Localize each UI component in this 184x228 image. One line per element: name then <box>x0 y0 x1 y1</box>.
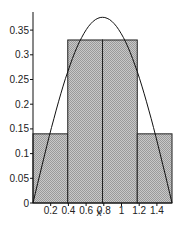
x-tick-label: 0.6 <box>79 205 93 216</box>
x-axis-label: x <box>97 207 102 218</box>
y-tick-label: 0.1 <box>15 148 29 159</box>
x-tick-label: 1 <box>119 205 125 216</box>
y-tick-label: 0 <box>23 198 29 209</box>
bar <box>33 134 68 203</box>
y-tick-label: 0.25 <box>10 74 30 85</box>
y-tick-label: 0.35 <box>10 25 30 36</box>
x-tick-label: 1.2 <box>132 205 146 216</box>
y-tick-label: 0.3 <box>15 49 29 60</box>
bars <box>33 40 172 203</box>
x-tick-label: 0.4 <box>61 205 75 216</box>
bar <box>68 40 103 203</box>
riemann-sum-chart: 00.050.10.150.20.250.30.350.20.40.60.811… <box>0 0 184 228</box>
y-tick-label: 0.2 <box>15 99 29 110</box>
x-tick-label: 0.2 <box>44 205 58 216</box>
bar <box>103 40 138 203</box>
y-tick-label: 0.05 <box>10 173 30 184</box>
y-tick-label: 0.15 <box>10 123 30 134</box>
bar <box>137 134 172 203</box>
x-tick-label: 1.4 <box>150 205 164 216</box>
